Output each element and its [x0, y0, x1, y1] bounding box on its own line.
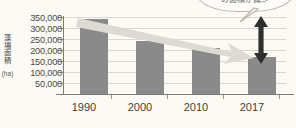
callout-bubble-tail-icon	[238, 7, 260, 23]
x-axis-tick	[111, 95, 112, 99]
y-axis-tick	[58, 61, 63, 62]
callout-bubble-text: の面積が減少	[197, 0, 293, 4]
y-axis-tick	[58, 72, 63, 73]
y-tick-label: 50,000	[35, 80, 62, 89]
y-tick-label: 200,000	[30, 47, 62, 56]
y-axis-tick	[58, 39, 63, 40]
y-axis-tick-labels: 350,000 300,000 250,000 200,000 150,000 …	[14, 0, 62, 128]
bar-1990	[80, 19, 108, 94]
y-tick-label: 350,000	[30, 14, 62, 23]
x-axis-tick	[167, 95, 168, 99]
bar-series	[64, 17, 286, 94]
y-tick-label: 100,000	[30, 69, 62, 78]
x-axis-tick	[279, 95, 280, 99]
bar-2010	[192, 48, 220, 94]
chart-figure: 藻場面積 (ha) 350,000 300,000 250,000 200,00…	[0, 0, 296, 128]
x-tick-label-2010: 2010	[168, 101, 224, 113]
y-tick-label: 150,000	[30, 58, 62, 67]
x-tick-label-2017: 2017	[224, 101, 280, 113]
x-tick-label-1990: 1990	[56, 101, 112, 113]
y-axis-title: 藻場面積	[1, 34, 14, 64]
bar-2000	[136, 41, 164, 94]
y-axis-tick	[58, 17, 63, 18]
y-tick-label: 250,000	[30, 36, 62, 45]
bar-2017	[248, 57, 276, 94]
x-axis-line	[56, 94, 294, 95]
y-axis-unit: (ha)	[0, 70, 15, 77]
y-axis-tick	[58, 83, 63, 84]
x-tick-label-2000: 2000	[112, 101, 168, 113]
y-axis-tick	[58, 28, 63, 29]
x-axis-tick	[223, 95, 224, 99]
y-tick-label: 300,000	[30, 25, 62, 34]
y-axis-tick	[58, 50, 63, 51]
